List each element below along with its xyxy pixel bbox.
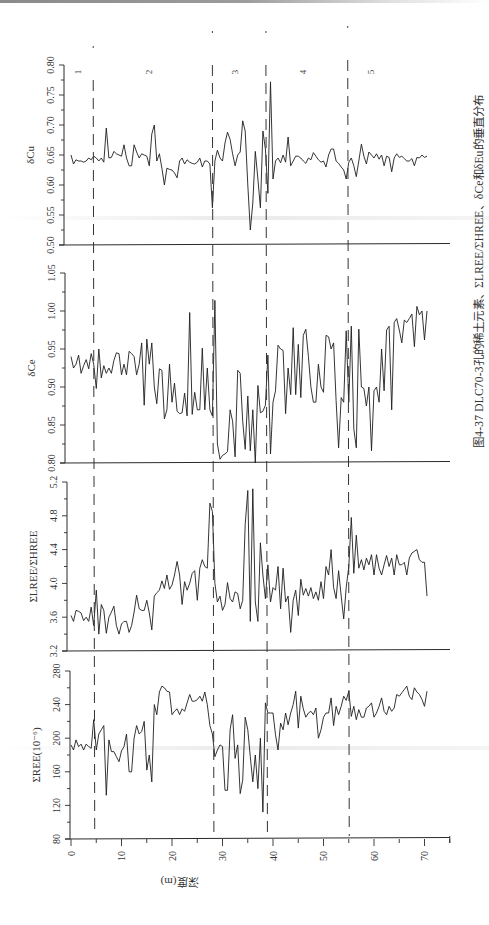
- y-tick-label: 0.70: [45, 116, 56, 134]
- series-line: [71, 489, 427, 634]
- y-tick-label: 4.4: [48, 543, 59, 556]
- series-line: [71, 686, 427, 812]
- y-tick-label: 0.95: [46, 340, 57, 358]
- y-tick-label: 280: [51, 664, 62, 679]
- y-tick-label: 0.50: [45, 236, 56, 254]
- y-tick-label: 0.80: [46, 454, 57, 472]
- panel-1: 0.500.550.600.650.700.750.80δCu: [24, 56, 450, 254]
- panel-3: 3.23.64.04.44.85.2ΣLREE/ΣHREE: [27, 476, 450, 658]
- y-tick-label: 0.90: [46, 378, 57, 396]
- baseline: [59, 244, 450, 246]
- series-line: [71, 300, 427, 463]
- x-tick-label: 50: [318, 851, 329, 861]
- y-tick-label: 200: [51, 731, 62, 746]
- y-tick-label: 0.60: [45, 176, 56, 194]
- x-tick-label: 10: [116, 851, 127, 861]
- y-tick-label: 1.00: [46, 302, 57, 320]
- depth-axis: 010203040506070深度(m): [66, 836, 450, 889]
- panel-4: 80120160200240280ΣREE(10⁻⁶): [30, 664, 450, 845]
- y-tick-label: 0.85: [46, 416, 57, 434]
- y-axis-label: ΣREE(10⁻⁶): [30, 727, 43, 782]
- y-axis-label: ΣLREE/ΣHREE: [27, 530, 39, 602]
- zone-boundaries: [93, 26, 349, 836]
- y-tick-label: 160: [51, 764, 62, 779]
- y-tick-label: 1.05: [46, 264, 57, 282]
- zone-label: 3: [230, 69, 240, 74]
- y-tick-label: 240: [51, 697, 62, 712]
- y-axis-label: δCu: [24, 145, 36, 164]
- y-tick-label: 120: [51, 798, 62, 813]
- x-tick-label: 40: [268, 851, 279, 861]
- x-tick-label: 0: [66, 851, 77, 856]
- x-tick-label: 70: [419, 851, 430, 861]
- y-tick-label: 0.75: [45, 86, 56, 104]
- zone-label: 4: [298, 69, 308, 74]
- y-tick-label: 3.2: [48, 645, 59, 658]
- y-tick-label: 0.55: [45, 206, 56, 224]
- x-tick-label: 30: [217, 851, 228, 861]
- y-tick-label: 5.2: [48, 476, 59, 489]
- baseline: [65, 838, 450, 840]
- zone-labels: 12345: [73, 69, 376, 74]
- y-tick-label: 4.0: [48, 577, 59, 590]
- zone-label: 2: [144, 70, 154, 75]
- y-tick-label: 3.6: [48, 611, 59, 624]
- x-tick-label: 20: [167, 851, 178, 861]
- panel-2: 0.800.850.900.951.001.05δCe: [25, 264, 450, 472]
- y-axis-label: δCe: [25, 359, 37, 377]
- x-axis-label: 深度(m): [160, 875, 198, 889]
- y-tick-label: 80: [51, 834, 62, 844]
- y-tick-label: 0.80: [45, 56, 56, 74]
- figure-caption: 图4-37 DLC70-3孔的稀土元素、ΣLREE/ΣHREE、δCe和δEu的…: [470, 94, 486, 448]
- baseline: [62, 650, 450, 652]
- depth-profile-chart: 0.500.550.600.650.700.750.80δCu0.800.850…: [0, 0, 489, 925]
- zone-label: 1: [73, 70, 83, 75]
- series-line: [71, 82, 427, 230]
- y-tick-label: 0.65: [45, 146, 56, 164]
- y-tick-label: 4.8: [48, 510, 59, 523]
- x-tick-label: 60: [369, 851, 380, 861]
- zone-boundary-line: [348, 60, 350, 836]
- zone-label: 5: [366, 69, 376, 74]
